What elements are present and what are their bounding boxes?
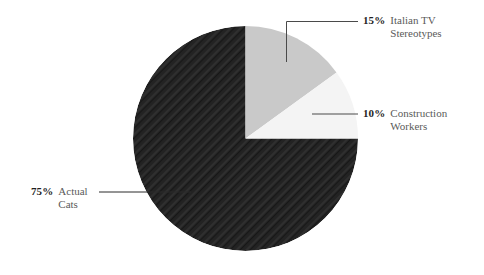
pie-chart-page: 15% Italian TV Stereotypes 10% Construct… bbox=[0, 0, 484, 275]
callout-label-line2-italian-tv: Stereotypes bbox=[390, 27, 441, 40]
callout-label-construction-workers: Construction Workers bbox=[390, 107, 447, 132]
callout-label-line1-construction-workers: Construction bbox=[390, 107, 447, 119]
callout-label-line2-actual-cats: Cats bbox=[58, 198, 87, 211]
callout-percent-italian-tv: 15% bbox=[363, 14, 385, 27]
callout-label-italian-tv: Italian TV Stereotypes bbox=[390, 14, 441, 39]
callout-label-actual-cats: Actual Cats bbox=[58, 185, 87, 210]
callout-label-line1-actual-cats: Actual bbox=[58, 185, 87, 197]
callout-percent-construction-workers: 10% bbox=[363, 107, 385, 120]
callout-label-line2-construction-workers: Workers bbox=[390, 120, 447, 133]
callout-label-line1-italian-tv: Italian TV bbox=[390, 14, 435, 26]
pie-chart-figure bbox=[0, 0, 484, 275]
callout-italian-tv: 15% Italian TV Stereotypes bbox=[363, 14, 442, 39]
callout-actual-cats: 75% Actual Cats bbox=[31, 185, 88, 210]
callout-construction-workers: 10% Construction Workers bbox=[363, 107, 447, 132]
callout-percent-actual-cats: 75% bbox=[31, 185, 53, 198]
